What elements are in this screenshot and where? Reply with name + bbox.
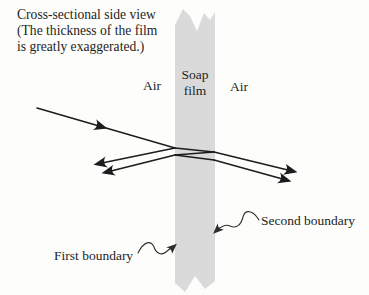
first-boundary-label: First boundary xyxy=(54,248,133,264)
transmitted-ray-1-arrowhead xyxy=(283,164,299,178)
soap-film-label: Soap film xyxy=(175,67,215,98)
caption: Cross-sectional side view (The thickness… xyxy=(17,7,157,56)
incident-ray-arrowhead xyxy=(93,119,109,134)
caption-line-3: is greatly exaggerated.) xyxy=(17,39,157,55)
second-boundary-label: Second boundary xyxy=(261,213,355,229)
reflected-ray-2 xyxy=(105,155,175,173)
caption-line-1: Cross-sectional side view xyxy=(17,7,157,23)
reflected-ray-1 xyxy=(97,148,175,164)
first-boundary-leader xyxy=(138,243,172,254)
second-boundary-leader xyxy=(217,212,259,230)
air-right-label: Air xyxy=(230,79,248,95)
air-left-label: Air xyxy=(143,78,161,94)
transmitted-ray-1 xyxy=(214,152,294,172)
transmitted-ray-2-arrowhead xyxy=(277,172,293,186)
caption-line-2: (The thickness of the film xyxy=(17,23,157,39)
reflected-ray-2-arrowhead xyxy=(100,165,116,179)
soap-film-label-line-2: film xyxy=(175,83,215,99)
soap-film-diagram: Cross-sectional side view (The thickness… xyxy=(0,0,369,295)
transmitted-ray-2 xyxy=(214,160,288,181)
reflected-ray-1-arrowhead xyxy=(92,157,107,171)
soap-film-label-line-1: Soap xyxy=(175,67,215,83)
